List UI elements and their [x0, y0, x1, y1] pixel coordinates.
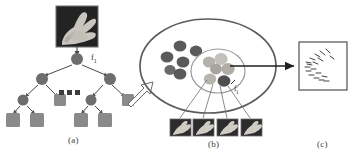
panel-a-source-image — [56, 6, 98, 47]
tree-node — [36, 73, 48, 85]
cluster-feature-label: fi — [234, 84, 238, 95]
tree-node-root — [71, 53, 83, 65]
feature-dot — [161, 51, 174, 62]
cluster-dot-selected — [218, 75, 231, 87]
feature-dot — [177, 56, 190, 67]
thumbnail — [241, 119, 262, 136]
feature-dot — [164, 65, 175, 75]
tree-leaf — [6, 113, 20, 127]
hand-photo-content — [57, 7, 97, 46]
tree-node — [104, 73, 116, 85]
tree-leaf — [54, 94, 66, 106]
tree-node — [86, 95, 97, 106]
tree-ellipsis-icon — [59, 90, 80, 95]
tree-leaf — [74, 113, 88, 127]
tree-node — [18, 95, 29, 106]
panel-label-c: (c) — [317, 139, 328, 149]
cluster-dot — [214, 53, 227, 65]
tree-leaf — [98, 113, 112, 127]
panel-b-thumbnails — [170, 119, 262, 136]
tree-internal-nodes — [18, 53, 117, 106]
panel-c-box — [299, 42, 347, 90]
figure-container: f1 fi (a) (b) (c) — [0, 0, 358, 162]
cluster-dot — [210, 64, 222, 75]
feature-dot — [174, 40, 187, 51]
figure-canvas — [0, 0, 358, 162]
feature-dots-cluster — [203, 53, 235, 87]
tree-edges — [13, 65, 125, 114]
feature-dots-outer — [161, 40, 203, 79]
cluster-dot — [204, 73, 216, 84]
thumbnail — [217, 119, 238, 136]
panel-label-b: (b) — [208, 139, 219, 149]
cluster-dot — [221, 63, 234, 75]
root-feature-label: f1 — [91, 52, 97, 64]
thumbnail — [170, 119, 191, 136]
panel-label-a: (a) — [68, 135, 79, 145]
thumbnail — [193, 119, 214, 136]
tree-leaf — [30, 113, 44, 127]
result-box-frame — [299, 42, 347, 90]
